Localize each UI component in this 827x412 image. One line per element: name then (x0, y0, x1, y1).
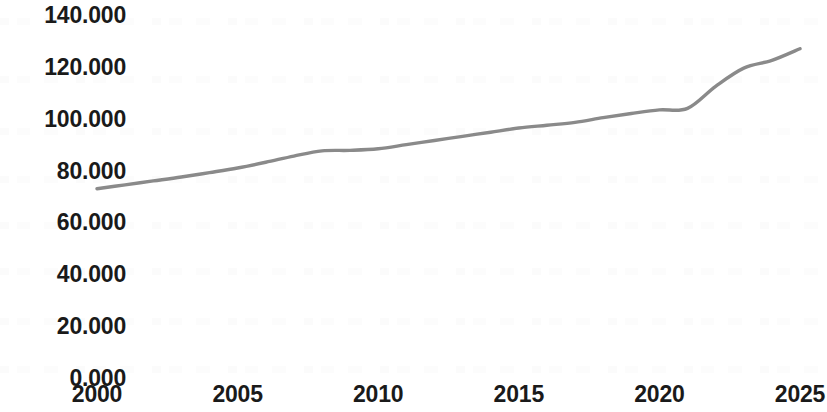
line-chart: 140.000120.000100.00080.00060.00040.0002… (0, 0, 827, 412)
data-series-line (97, 49, 800, 189)
plot-area (0, 0, 827, 412)
